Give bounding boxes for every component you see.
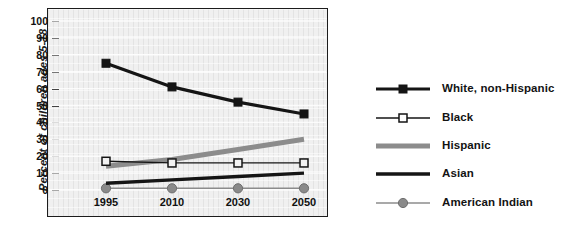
data-point-marker (299, 184, 308, 193)
data-point-marker (234, 159, 242, 167)
data-point-marker (167, 184, 176, 193)
data-point-marker (102, 157, 110, 165)
data-point-marker (234, 98, 242, 106)
legend-item[interactable]: White, non-Hispanic (374, 80, 564, 98)
series-asian (106, 173, 304, 183)
data-point-marker (102, 59, 110, 67)
data-point-marker (300, 110, 308, 118)
series-american-indian (101, 184, 308, 193)
legend-item[interactable]: American Indian (374, 194, 564, 212)
legend-swatch (374, 80, 432, 98)
legend-label: White, non-Hispanic (442, 82, 554, 94)
data-point-marker (233, 184, 242, 193)
legend-marker (398, 198, 407, 207)
data-point-marker (300, 159, 308, 167)
legend-label: Asian (442, 167, 474, 179)
chart-figure: Percent of children ages 5-18 1009080706… (0, 0, 564, 232)
legend-label: Hispanic (442, 139, 491, 151)
legend-item[interactable]: Black (374, 109, 564, 127)
legend-swatch (374, 137, 432, 155)
legend-marker (399, 85, 407, 93)
data-point-marker (168, 159, 176, 167)
legend-label: Black (442, 111, 473, 123)
series-line (106, 173, 304, 183)
data-point-marker (168, 83, 176, 91)
chart-legend: White, non-HispanicBlackHispanicAsianAme… (374, 0, 564, 232)
legend-item[interactable]: Hispanic (374, 137, 564, 155)
legend-swatch (374, 109, 432, 127)
legend-label: American Indian (442, 196, 533, 208)
legend-item[interactable]: Asian (374, 165, 564, 183)
data-point-marker (101, 184, 110, 193)
legend-swatch (374, 165, 432, 183)
legend-swatch (374, 194, 432, 212)
legend-marker (399, 114, 407, 122)
